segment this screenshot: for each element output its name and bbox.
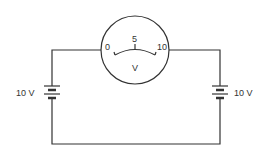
meter-scale-max: 10 xyxy=(157,42,167,52)
meter-unit-label: V xyxy=(132,63,138,73)
wire-bottom xyxy=(52,99,220,144)
battery-right xyxy=(212,86,228,98)
battery-left xyxy=(44,86,60,98)
battery-left-label: 10 V xyxy=(16,88,35,98)
wire-left-top xyxy=(52,50,102,86)
circuit-diagram: 0 5 10 V 10 V 10 V xyxy=(0,0,270,149)
battery-right-label: 10 V xyxy=(234,88,253,98)
voltmeter: 0 5 10 V xyxy=(101,16,169,84)
meter-scale-mid: 5 xyxy=(132,34,137,44)
wire-right-top xyxy=(168,50,220,86)
meter-scale-min: 0 xyxy=(105,42,110,52)
